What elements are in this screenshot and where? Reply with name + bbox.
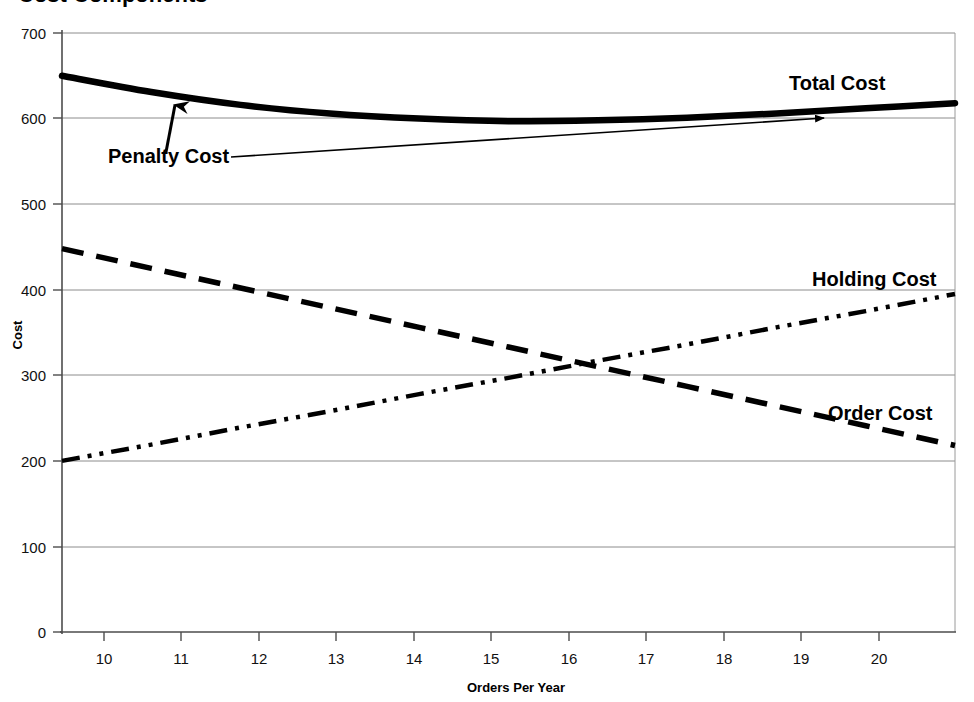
x-tick-label-17: 17 bbox=[638, 650, 655, 667]
x-tick-label-20: 20 bbox=[871, 650, 888, 667]
page-title: Cost Components bbox=[18, 0, 207, 7]
x-tick-label-19: 19 bbox=[793, 650, 810, 667]
cost-tradeoff-chart: Cost Components bbox=[0, 0, 974, 702]
y-tick-label-100: 100 bbox=[21, 539, 46, 556]
x-tick-label-15: 15 bbox=[483, 650, 500, 667]
y-axis-title: Cost bbox=[10, 320, 25, 350]
label-order-cost: Order Cost bbox=[828, 402, 933, 424]
x-axis-title: Orders Per Year bbox=[467, 680, 565, 695]
chart-title-clipped: Cost Components bbox=[18, 0, 207, 7]
y-tick-label-200: 200 bbox=[21, 453, 46, 470]
label-penalty-cost: Penalty Cost bbox=[108, 145, 229, 167]
y-tick-label-400: 400 bbox=[21, 282, 46, 299]
x-tick-label-18: 18 bbox=[716, 650, 733, 667]
x-tick-label-12: 12 bbox=[251, 650, 268, 667]
x-tick-label-16: 16 bbox=[561, 650, 578, 667]
x-tick-label-10: 10 bbox=[96, 650, 113, 667]
x-tick-label-14: 14 bbox=[406, 650, 423, 667]
y-tick-label-600: 600 bbox=[21, 110, 46, 127]
y-tick-label-700: 700 bbox=[21, 25, 46, 42]
y-tick-label-300: 300 bbox=[21, 367, 46, 384]
label-holding-cost: Holding Cost bbox=[812, 268, 937, 290]
label-total-cost: Total Cost bbox=[789, 72, 886, 94]
y-tick-label-500: 500 bbox=[21, 196, 46, 213]
chart-svg: Cost Components bbox=[0, 0, 974, 702]
x-tick-label-13: 13 bbox=[328, 650, 345, 667]
x-tick-label-11: 11 bbox=[173, 650, 189, 667]
chart-background bbox=[0, 0, 974, 702]
y-tick-label-0: 0 bbox=[38, 624, 46, 641]
